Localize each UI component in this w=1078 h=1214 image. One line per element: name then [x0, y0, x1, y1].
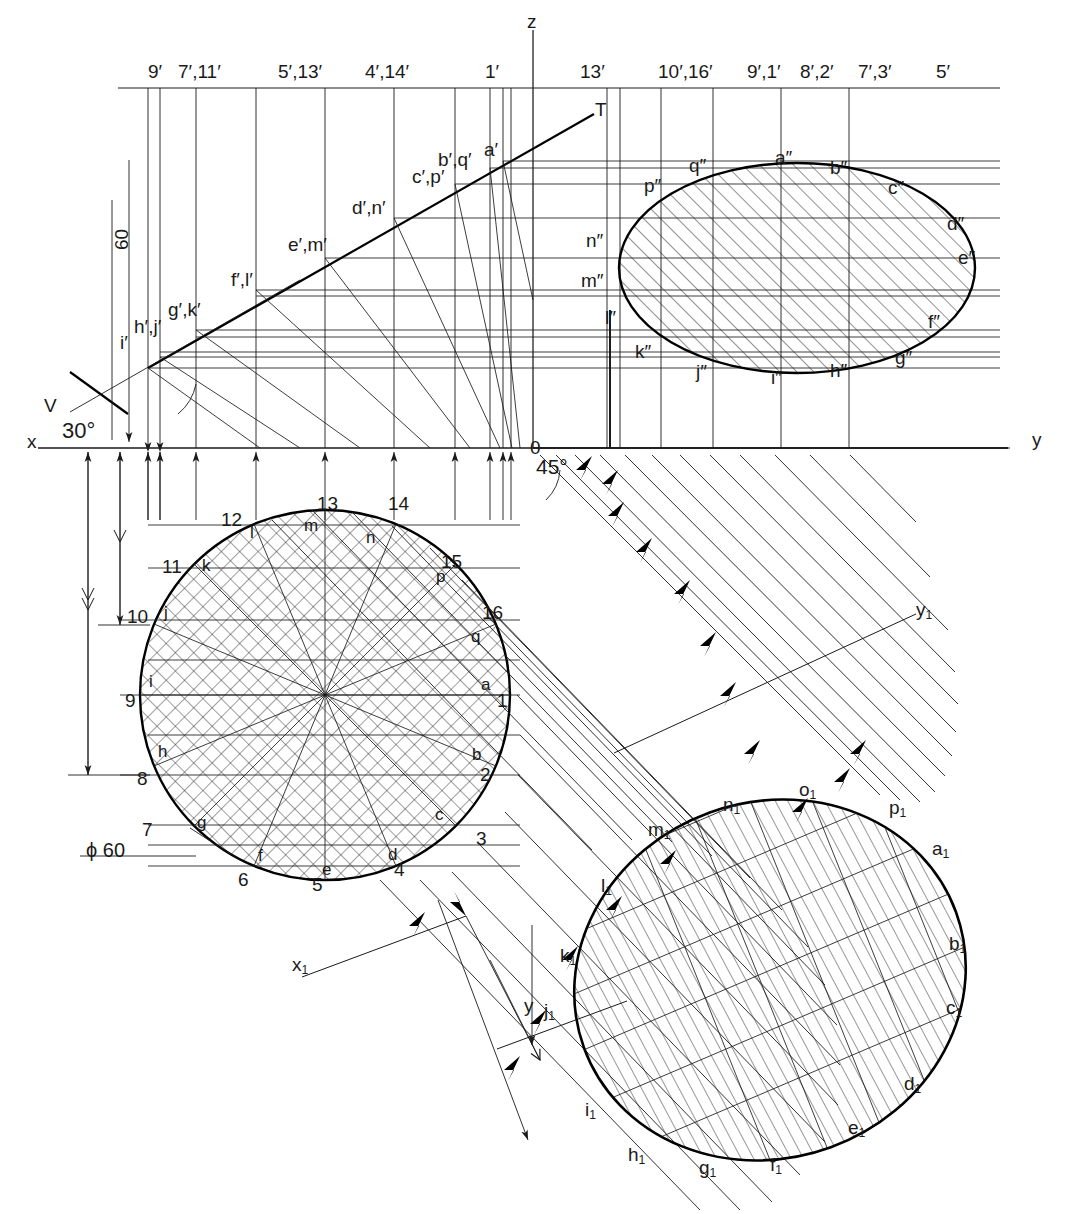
side-view-point-label: h″	[830, 361, 847, 380]
plan-point-label: h	[158, 743, 167, 760]
y1-axis-label: y1	[916, 600, 932, 621]
side-view-point-label: p″	[644, 176, 661, 195]
side-view-point-label: j″	[696, 362, 707, 381]
aux-view-point-label: f1	[770, 1155, 782, 1176]
plan-number-label: 11	[162, 557, 182, 576]
plan-point-label: c	[435, 806, 444, 823]
plan-number-label: 8	[137, 769, 148, 788]
aux-x1-axis	[302, 916, 466, 977]
side-view-point-label: n″	[586, 231, 603, 250]
aux-view-point-label: j1	[544, 1001, 555, 1022]
front-view-generators	[148, 161, 533, 448]
top-ordinate-label: 4′,14′	[365, 62, 409, 81]
plan-point-label: a	[481, 676, 490, 693]
side-view-point-label: m″	[581, 271, 604, 290]
plan-point-label: i	[149, 673, 153, 690]
plan-number-label: 15	[441, 552, 462, 571]
plan-point-label: f	[258, 847, 263, 864]
top-ordinate-label: 1′	[485, 62, 499, 81]
front-view-point-label: i′	[120, 333, 128, 352]
plan-number-label: 2	[480, 765, 491, 784]
top-ordinate-label: 5′,13′	[278, 62, 322, 81]
plan-point-label: k	[202, 557, 211, 574]
plan-point-label: b	[472, 746, 481, 763]
side-view-point-label: e″	[958, 248, 975, 267]
front-view-point-label: g′,k′	[168, 300, 200, 319]
aux-view-point-label: c1	[946, 998, 962, 1019]
side-view-point-label: b″	[830, 158, 847, 177]
vertical-plane-label-V: V	[44, 396, 57, 415]
aux-view-point-label: o1	[799, 780, 816, 801]
x-axis-label: x	[27, 432, 37, 451]
front-view-point-label: a′	[484, 140, 498, 159]
front-view-point-label: h′,j′	[134, 317, 161, 336]
trace-label-T: T	[595, 100, 607, 119]
side-view-point-label: d″	[947, 214, 964, 233]
z-axis-label: z	[527, 12, 537, 31]
plan-point-label: g	[197, 814, 206, 831]
front-view-point-label: b′,q′	[438, 150, 472, 169]
side-view-point-label: l″	[605, 308, 616, 327]
drawing-sheet: z x y 0 T V x1 y1 y 60 ϕ 60 30° 45° 9′7′…	[0, 0, 1078, 1214]
side-view-point-label: i″	[771, 368, 782, 387]
aux-view-point-label: g1	[699, 1158, 716, 1179]
cutting-plane-trace	[70, 114, 594, 414]
dimension-60-label: 60	[112, 229, 131, 250]
aux-view-point-label: d1	[904, 1074, 921, 1095]
top-ordinate-label: 7′,3′	[858, 62, 892, 81]
side-view-point-label: c″	[888, 178, 904, 197]
dimension-60	[112, 160, 129, 442]
aux-view-point-label: k1	[560, 946, 576, 967]
front-view-ordinates	[148, 88, 511, 448]
plan-number-label: 1	[497, 691, 508, 710]
aux-view-point-label: b1	[949, 934, 966, 955]
front-view-point-label: d′,n′	[352, 198, 386, 217]
plan-point-label: n	[366, 529, 375, 546]
plan-point-label: l	[250, 524, 254, 541]
aux-y1-axis	[614, 614, 916, 753]
side-view-point-label: k″	[635, 342, 651, 361]
top-ordinate-label: 8′,2′	[800, 62, 834, 81]
plan-number-label: 7	[142, 820, 153, 839]
side-view-point-label: f″	[928, 312, 940, 331]
side-view-point-label: g″	[895, 348, 912, 367]
front-view-point-label: f′,l′	[231, 270, 253, 289]
aux-view-point-label: l1	[601, 876, 612, 897]
plan-point-label: m	[304, 517, 318, 534]
plan-number-label: 4	[394, 860, 405, 879]
aux-view-point-label: h1	[628, 1145, 645, 1166]
plan-point-label: q	[471, 628, 480, 645]
aux-view-point-label: n1	[723, 795, 740, 816]
plan-number-label: 13	[317, 494, 338, 513]
mitre-45-construction	[533, 448, 1010, 802]
aux-view-point-label: a1	[932, 839, 949, 860]
front-view-point-label: e′,m′	[288, 235, 327, 254]
top-ordinate-label: 5′	[936, 62, 950, 81]
plan-number-label: 6	[238, 870, 249, 889]
aux-y-axis-label: y	[524, 996, 534, 1015]
plan-point-label: j	[164, 604, 168, 621]
aux-view-point-label: i1	[585, 1100, 596, 1121]
y-axis-label: y	[1032, 430, 1042, 449]
plan-number-label: 5	[312, 875, 323, 894]
aux-view-point-label: e1	[848, 1118, 865, 1139]
plan-number-label: 3	[476, 829, 487, 848]
top-ordinate-label: 7′,11′	[178, 62, 221, 81]
aux-view-point-label: p1	[889, 798, 906, 819]
diameter-dimension-label: ϕ 60	[86, 840, 125, 860]
side-view-point-label: q″	[689, 156, 706, 175]
angle-45-label: 45°	[536, 456, 568, 477]
x1-axis-label: x1	[292, 955, 308, 976]
plan-number-label: 10	[127, 607, 148, 626]
plan-number-label: 9	[125, 691, 136, 710]
aux-direction-arrows	[438, 900, 540, 1140]
plan-number-label: 12	[221, 510, 242, 529]
plan-number-label: 16	[482, 603, 503, 622]
top-ordinate-label: 10′,16′	[658, 62, 713, 81]
top-ordinate-label: 13′	[580, 62, 605, 81]
top-ordinate-label: 9′,1′	[747, 62, 781, 81]
side-view	[615, 160, 985, 380]
top-ordinate-label: 9′	[148, 62, 162, 81]
angle-30-label: 30°	[62, 420, 95, 442]
v-plane-tick	[70, 372, 128, 414]
